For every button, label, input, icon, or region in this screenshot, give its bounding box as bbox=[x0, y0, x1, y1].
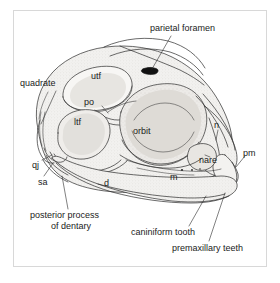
label-quadrate: quadrate bbox=[20, 78, 56, 88]
label-premaxillary-teeth: premaxillary teeth bbox=[172, 243, 243, 253]
label-d: d bbox=[104, 178, 109, 188]
label-m: m bbox=[170, 172, 178, 182]
leader-posterior-process bbox=[62, 176, 68, 209]
skull-diagram-illustration bbox=[0, 0, 280, 283]
label-pm: pm bbox=[243, 148, 256, 158]
label-posterior-process-line1: posterior process bbox=[30, 210, 99, 220]
maxilla-foramen-1 bbox=[181, 169, 183, 171]
maxilla-foramen-3 bbox=[199, 168, 201, 170]
label-orbit: orbit bbox=[133, 126, 151, 136]
label-po: po bbox=[84, 97, 94, 107]
label-utf: utf bbox=[91, 71, 101, 81]
label-ltf: ltf bbox=[74, 117, 81, 127]
label-posterior-process-line2: of dentary bbox=[30, 221, 112, 231]
label-sa: sa bbox=[38, 177, 48, 187]
label-nare: nare bbox=[199, 155, 217, 165]
maxilla-foramen-2 bbox=[191, 169, 193, 171]
parietal-foramen-hole bbox=[141, 68, 158, 75]
skull-outline-group bbox=[36, 38, 238, 203]
label-caniniform-tooth: caniniform tooth bbox=[131, 227, 195, 237]
label-qj: qj bbox=[32, 160, 39, 170]
label-n: n bbox=[214, 120, 219, 130]
label-parietal-foramen: parietal foramen bbox=[150, 23, 215, 33]
figure-page: parietal foramen quadrate utf po ltf orb… bbox=[0, 0, 280, 283]
leader-sa bbox=[44, 163, 53, 176]
